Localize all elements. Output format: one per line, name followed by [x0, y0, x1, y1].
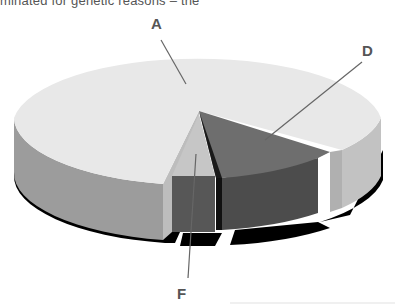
- label-d: D: [362, 42, 373, 59]
- label-a: A: [151, 15, 162, 32]
- slice-a-right-cut: [330, 150, 342, 212]
- label-f: F: [177, 285, 186, 302]
- pie-chart-3d: A D F: [0, 0, 395, 305]
- bottom-rule: [230, 302, 395, 304]
